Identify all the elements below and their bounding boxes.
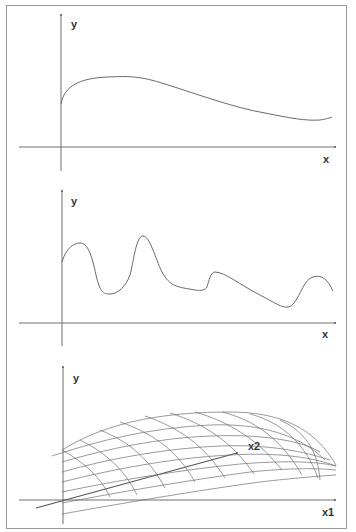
panel-1: y x [19, 15, 335, 171]
x-axis-label: x [323, 153, 330, 165]
x-axis-label: x [322, 328, 329, 340]
panel-2: y x [19, 191, 335, 346]
panel-3: y x1 x2 [19, 367, 336, 524]
figure-canvas: y x y x y x1 x2 [0, 0, 356, 532]
y-axis-label: y [73, 372, 80, 384]
x1-axis-label: x1 [322, 506, 334, 518]
y-axis-label: y [71, 195, 78, 207]
y-axis-label: y [71, 18, 78, 30]
curve [62, 236, 333, 307]
curve [61, 77, 332, 121]
